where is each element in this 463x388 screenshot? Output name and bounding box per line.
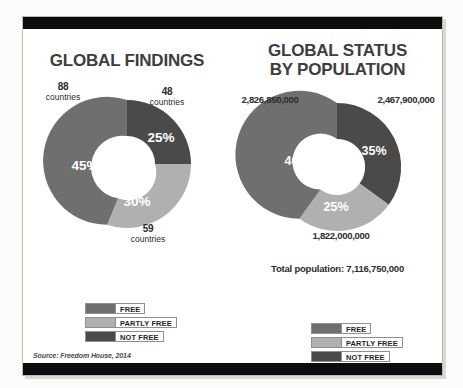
panel-content: GLOBAL FINDINGS 25% 30% 45% <box>23 29 442 365</box>
callout-free-population: 2,826,850,000 <box>227 95 313 105</box>
total-population-line: Total population: 7,116,750,000 <box>231 263 444 274</box>
callout-partly-free-population: 1,822,000,000 <box>293 231 389 241</box>
callout-partly-free-countries: 59 countries <box>119 224 177 244</box>
legend-swatch-not-free-icon <box>85 331 115 342</box>
global-status-title: GLOBAL STATUS BY POPULATION <box>231 41 444 79</box>
donut-label-not-free: 25% <box>147 130 174 145</box>
global-findings-title: GLOBAL FINDINGS <box>23 51 231 70</box>
source-note: Source: Freedom House, 2014 <box>33 352 131 359</box>
global-findings-donut-svg: 25% 30% 45% <box>27 84 227 244</box>
legend-row-free: FREE <box>311 323 403 334</box>
legend-swatch-not-free-icon <box>311 351 341 362</box>
global-status-donut-svg: 35% 25% 40% <box>235 87 440 247</box>
callout-partly-free-number: 59 <box>119 224 177 234</box>
callout-free-unit: countries <box>35 92 91 102</box>
legend-global-status: FREE PARTLY FREE NOT FREE <box>311 323 403 365</box>
legend-global-findings: FREE PARTLY FREE NOT FREE <box>85 303 177 345</box>
legend-row-partly-free: PARTLY FREE <box>311 337 403 348</box>
callout-free-population-value: 2,826,850,000 <box>227 95 313 105</box>
legend-label-not-free: NOT FREE <box>341 351 390 362</box>
donut-label-not-free: 35% <box>361 144 386 158</box>
legend-label-partly-free: PARTLY FREE <box>341 337 403 348</box>
global-status-donut: 35% 25% 40% 2,826,850,000 2,467,900,000 … <box>235 87 440 247</box>
legend-row-free: FREE <box>85 303 177 314</box>
callout-not-free-number: 48 <box>139 87 195 97</box>
callout-partly-free-population-value: 1,822,000,000 <box>293 231 389 241</box>
legend-row-partly-free: PARTLY FREE <box>85 317 177 328</box>
legend-swatch-partly-free-icon <box>311 337 341 348</box>
legend-label-free: FREE <box>115 303 145 314</box>
infographic-root: GLOBAL FINDINGS 25% 30% 45% <box>0 0 463 388</box>
global-status-section: GLOBAL STATUS BY POPULATION 35% 25% <box>231 29 444 274</box>
callout-not-free-population-value: 2,467,900,000 <box>363 95 449 105</box>
callout-not-free-population: 2,467,900,000 <box>363 95 449 105</box>
callout-free-countries: 88 countries <box>35 82 91 102</box>
legend-label-not-free: NOT FREE <box>115 331 164 342</box>
legend-swatch-free-icon <box>311 323 341 334</box>
donut-label-free: 40% <box>284 154 309 168</box>
callout-free-number: 88 <box>35 82 91 92</box>
legend-label-free: FREE <box>341 323 371 334</box>
callout-not-free-countries: 48 countries <box>139 87 195 107</box>
donut-label-partly-free: 25% <box>323 200 348 214</box>
global-status-title-line1: GLOBAL STATUS <box>231 41 444 60</box>
legend-label-partly-free: PARTLY FREE <box>115 317 177 328</box>
legend-swatch-free-icon <box>85 303 115 314</box>
callout-not-free-unit: countries <box>139 97 195 107</box>
global-findings-donut: 25% 30% 45% 88 countries 48 countries 59 <box>27 84 227 244</box>
infographic-panel: GLOBAL FINDINGS 25% 30% 45% <box>22 16 443 376</box>
legend-row-not-free: NOT FREE <box>311 351 403 362</box>
donut-label-free: 45% <box>71 158 98 173</box>
legend-row-not-free: NOT FREE <box>85 331 177 342</box>
donut-label-partly-free: 30% <box>123 194 150 209</box>
panel-top-bar <box>23 17 442 29</box>
legend-swatch-partly-free-icon <box>85 317 115 328</box>
global-findings-section: GLOBAL FINDINGS 25% 30% 45% <box>23 29 231 244</box>
callout-partly-free-unit: countries <box>119 234 177 244</box>
global-status-title-line2: BY POPULATION <box>231 60 444 79</box>
